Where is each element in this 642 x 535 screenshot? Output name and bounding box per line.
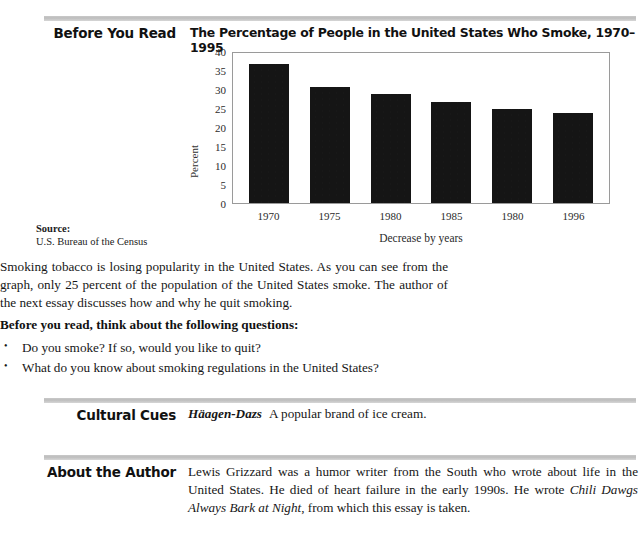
- questions-list: •Do you smoke? If so, would you like to …: [0, 338, 448, 379]
- chart-x-tick-label: 1980: [493, 210, 533, 222]
- chart-y-tick-label: 5: [200, 180, 226, 191]
- chart-x-tick-label: 1996: [554, 210, 594, 222]
- chart-y-axis-label-text: Percent: [188, 164, 200, 178]
- intro-paragraph: Smoking tobacco is losing popularity in …: [0, 258, 448, 313]
- smoking-percentage-bar-chart: Percent 4035302520151050 197019751980198…: [186, 52, 616, 257]
- section-heading-cultural-cues: Cultural Cues: [0, 407, 176, 423]
- chart-y-tick-label: 20: [200, 123, 226, 134]
- chart-x-axis-ticks: 197019751980198519801996: [232, 210, 610, 222]
- section-divider-cultural-cues: [44, 398, 636, 403]
- chart-y-axis-label: Percent: [188, 90, 200, 104]
- section-heading-about-the-author: About the Author: [0, 464, 176, 480]
- cultural-cue-entry: Häagen-DazsA popular brand of ice cream.: [188, 406, 636, 422]
- chart-source: Source: U.S. Bureau of the Census: [36, 222, 186, 249]
- chart-x-tick-label: 1975: [310, 210, 350, 222]
- chart-bar: [492, 109, 532, 203]
- chart-bars: [233, 53, 609, 203]
- section-divider-top: [44, 16, 636, 21]
- question-text: Do you smoke? If so, would you like to q…: [22, 340, 261, 355]
- chart-source-label: Source:: [36, 222, 186, 235]
- chart-x-tick-label: 1980: [371, 210, 411, 222]
- chart-bar: [371, 94, 411, 203]
- chart-bar: [310, 87, 350, 203]
- section-heading-before-you-read: Before You Read: [0, 25, 176, 41]
- question-list-item: •What do you know about smoking regulati…: [0, 358, 448, 378]
- author-text-part-two: , from which this essay is taken.: [301, 500, 470, 515]
- chart-y-tick-label: 40: [200, 47, 226, 58]
- about-the-author-paragraph: Lewis Grizzard was a humor writer from t…: [188, 463, 638, 518]
- bullet-icon: •: [4, 358, 8, 374]
- chart-title: The Percentage of People in the United S…: [190, 25, 640, 55]
- bullet-icon: •: [4, 338, 8, 354]
- chart-bar: [249, 64, 289, 203]
- section-divider-about-the-author: [44, 455, 636, 460]
- chart-x-tick-label: 1970: [249, 210, 289, 222]
- document-page: Before You Read The Percentage of People…: [0, 0, 642, 535]
- chart-x-tick-label: 1985: [432, 210, 472, 222]
- questions-heading: Before you read, think about the followi…: [0, 317, 448, 333]
- chart-y-tick-label: 35: [200, 66, 226, 77]
- question-text: What do you know about smoking regulatio…: [22, 360, 379, 375]
- chart-plot-area: [232, 52, 610, 204]
- chart-y-tick-label: 30: [200, 85, 226, 96]
- chart-y-tick-label: 10: [200, 161, 226, 172]
- chart-source-text: U.S. Bureau of the Census: [36, 235, 186, 248]
- cultural-cue-definition: A popular brand of ice cream.: [269, 406, 426, 421]
- cultural-cue-term: Häagen-Dazs: [188, 406, 262, 421]
- chart-y-tick-label: 0: [200, 199, 226, 210]
- chart-bar: [553, 113, 593, 203]
- question-list-item: •Do you smoke? If so, would you like to …: [0, 338, 448, 358]
- chart-y-tick-label: 25: [200, 104, 226, 115]
- chart-bar: [431, 102, 471, 203]
- chart-y-axis-ticks: 4035302520151050: [200, 52, 226, 204]
- chart-x-axis-label: Decrease by years: [232, 232, 610, 244]
- chart-y-tick-label: 15: [200, 142, 226, 153]
